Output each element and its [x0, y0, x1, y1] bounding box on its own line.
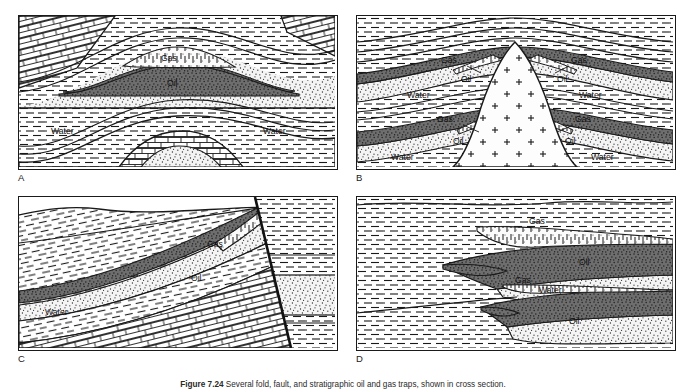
figure-caption-text: Several fold, fault, and stratigraphic o… [226, 380, 506, 389]
label-oil: Oil [569, 316, 580, 326]
label-water: Water [591, 152, 614, 162]
label-gas: Gas [437, 114, 453, 124]
label-oil: Oil [461, 74, 472, 84]
label-water: Water [263, 126, 286, 136]
panel-d-stratigraphic-trap: Gas Oil Water Gas Oil [356, 196, 676, 351]
label-gas: Gas [161, 53, 177, 63]
label-gas: Gas [515, 275, 531, 285]
panel-a-anticline-trap: Gas Oil Water Water [18, 15, 338, 170]
panel-letter-a: A [18, 172, 25, 183]
panel-c-cross-section: Gas Oil Water [19, 197, 335, 348]
label-gas: Gas [207, 239, 223, 249]
panel-b-salt-dome-trap: Gas Gas Oil Oil Water Water Gas Gas Oil … [356, 15, 676, 170]
figure-caption: Figure 7.24 Several fold, fault, and str… [0, 380, 686, 389]
label-water: Water [539, 285, 562, 295]
panel-c-fault-trap: Gas Oil Water [18, 196, 338, 351]
label-gas: Gas [529, 216, 545, 226]
label-water: Water [391, 152, 414, 162]
panel-a-cross-section: Gas Oil Water Water [19, 16, 335, 167]
label-oil: Oil [167, 78, 178, 88]
panel-letter-c: C [18, 353, 25, 364]
label-water: Water [407, 90, 430, 100]
geology-trap-figure: Gas Oil Water Water A [0, 0, 686, 389]
label-oil: Oil [453, 136, 464, 146]
panel-d-cross-section: Gas Oil Water Gas Oil [357, 197, 673, 348]
panel-letter-b: B [356, 172, 363, 183]
label-water: Water [45, 307, 68, 317]
figure-caption-label: Figure 7.24 [180, 380, 223, 389]
label-gas: Gas [571, 55, 587, 65]
label-oil: Oil [565, 136, 576, 146]
label-gas: Gas [575, 114, 591, 124]
label-water: Water [579, 90, 602, 100]
label-water: Water [51, 126, 74, 136]
label-gas: Gas [441, 55, 457, 65]
label-oil: Oil [191, 273, 202, 283]
label-oil: Oil [557, 74, 568, 84]
panel-b-cross-section: Gas Gas Oil Oil Water Water Gas Gas Oil … [357, 16, 673, 167]
label-oil: Oil [579, 257, 590, 267]
panel-letter-d: D [356, 353, 363, 364]
